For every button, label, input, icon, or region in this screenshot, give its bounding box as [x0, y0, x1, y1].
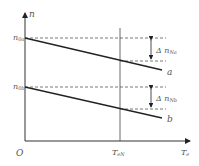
speed-torque-diagram: n n0a n0b Δ nNa Δ nNb a b O TeN Te — [0, 0, 199, 166]
x-axis-label: Te — [181, 148, 189, 157]
origin-label: O — [16, 148, 24, 158]
delta-nb-label: Δ nNb — [155, 94, 177, 103]
n0a-label: n0a — [13, 33, 24, 42]
ten-label: TeN — [112, 148, 125, 157]
line-b — [25, 87, 162, 118]
delta-na-label: Δ nNa — [155, 46, 177, 55]
y-axis-label: n — [29, 9, 35, 19]
n0b-label: n0b — [13, 82, 25, 91]
line-a-label: a — [167, 67, 172, 77]
line-b-label: b — [167, 114, 173, 124]
line-a — [25, 38, 162, 70]
